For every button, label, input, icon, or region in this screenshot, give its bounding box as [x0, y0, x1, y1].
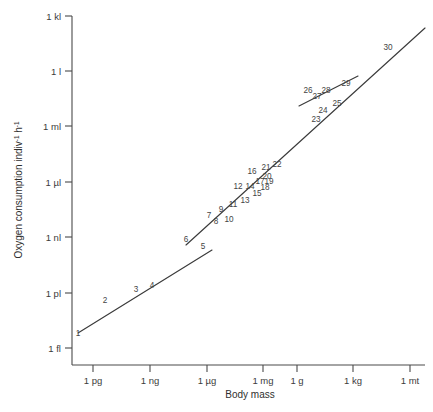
- data-point-label-8: 8: [214, 217, 219, 226]
- y-axis: 1 kl1 l1 ml1 µl1 nl1 pl1 fl: [43, 11, 72, 366]
- x-tick-label: 1 mt: [401, 375, 420, 386]
- x-tick-label: 1 pg: [84, 375, 103, 386]
- data-point-label-2: 2: [103, 296, 108, 305]
- chart-canvas: 1 kl1 l1 ml1 µl1 nl1 pl1 fl 1 pg1 ng1 µg…: [0, 0, 433, 412]
- data-point-label-7: 7: [207, 211, 212, 220]
- data-point-label-12: 12: [233, 182, 243, 191]
- data-point-label-1: 1: [76, 329, 81, 338]
- data-line-lower-line: [78, 250, 212, 333]
- y-tick-label: 1 l: [51, 66, 61, 77]
- y-tick-label: 1 kl: [46, 11, 61, 22]
- data-point-label-5: 5: [201, 242, 206, 251]
- data-point-label-30: 30: [383, 43, 393, 52]
- y-axis-title-main: Oxygen consumption indiv: [13, 141, 24, 258]
- x-tick-label: 1 mg: [252, 375, 273, 386]
- data-point-label-20: 20: [262, 172, 272, 181]
- y-axis-title-mid: h: [13, 127, 24, 135]
- data-point-label-9: 9: [219, 205, 224, 214]
- x-tick-label: 1 kg: [344, 375, 362, 386]
- data-point-label-13: 13: [240, 196, 250, 205]
- x-tick-group: [93, 365, 410, 372]
- x-tick-label-group: 1 pg1 ng1 µg1 mg1 g1 kg1 mt: [84, 375, 420, 386]
- data-point-label-22: 22: [272, 160, 282, 169]
- x-axis: 1 pg1 ng1 µg1 mg1 g1 kg1 mt: [72, 365, 425, 386]
- data-point-label-24: 24: [318, 106, 328, 115]
- y-axis-title-sup2: -1: [13, 121, 20, 127]
- data-point-label-28: 28: [321, 86, 331, 95]
- data-point-label-25: 25: [332, 99, 342, 108]
- chart-figure: 1 kl1 l1 ml1 µl1 nl1 pl1 fl 1 pg1 ng1 µg…: [0, 0, 433, 412]
- data-point-label-21: 21: [261, 163, 271, 172]
- data-point-label-16: 16: [247, 167, 257, 176]
- data-point-label-4: 4: [150, 281, 155, 290]
- y-axis-title: Oxygen consumption indiv-1 h-1: [13, 121, 24, 258]
- x-tick-label: 1 g: [290, 375, 303, 386]
- x-tick-label: 1 ng: [141, 375, 160, 386]
- y-tick-label: 1 ml: [43, 121, 61, 132]
- y-tick-label: 1 pl: [46, 288, 61, 299]
- y-tick-label: 1 nl: [46, 232, 61, 243]
- x-tick-label: 1 µg: [198, 375, 217, 386]
- data-point-label-11: 11: [229, 200, 238, 209]
- x-axis-title: Body mass: [225, 389, 274, 400]
- data-point-label-6: 6: [184, 235, 189, 244]
- y-tick-label: 1 fl: [48, 343, 61, 354]
- data-point-label-29: 29: [341, 79, 351, 88]
- data-line-group: [78, 28, 425, 333]
- data-point-label-3: 3: [134, 285, 139, 294]
- data-point-label-10: 10: [224, 215, 234, 224]
- y-tick-label: 1 µl: [45, 177, 61, 188]
- point-label-group: 1234567891011121314151617181920212223242…: [76, 43, 393, 338]
- data-point-label-23: 23: [311, 115, 321, 124]
- y-tick-group: [65, 16, 72, 348]
- y-tick-label-group: 1 kl1 l1 ml1 µl1 nl1 pl1 fl: [43, 11, 61, 354]
